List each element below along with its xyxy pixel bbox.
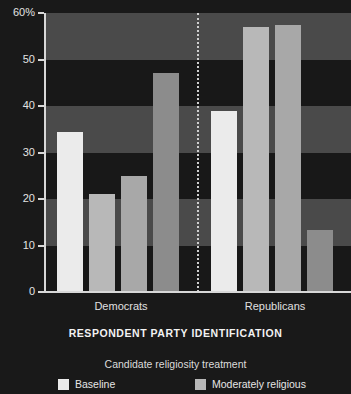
- legend-label-baseline: Baseline: [75, 378, 115, 390]
- y-tick-0: [38, 291, 44, 293]
- y-tick-10: [38, 245, 44, 247]
- legend-swatch-moderately-religious: [195, 379, 206, 390]
- legend-title: Candidate religiosity treatment: [0, 358, 351, 370]
- y-axis-line: [44, 13, 46, 293]
- bar-democrats-series-3: [121, 176, 147, 292]
- bar-democrats-series-4: [153, 73, 179, 292]
- y-tick-40: [38, 105, 44, 107]
- y-tick-60: [38, 12, 44, 14]
- bar-democrats-moderately-religious: [89, 194, 115, 292]
- y-tick-label-30: 30: [0, 146, 35, 158]
- plot-area: [45, 13, 351, 292]
- legend-item-baseline[interactable]: Baseline: [58, 378, 115, 390]
- y-tick-label-0: 0: [0, 285, 35, 297]
- y-tick-20: [38, 198, 44, 200]
- group-divider: [197, 13, 199, 292]
- bar-republicans-series-3: [275, 25, 301, 292]
- legend: Baseline Moderately religious: [0, 378, 351, 394]
- y-tick-label-50: 50: [0, 53, 35, 65]
- y-tick-label-10: 10: [0, 239, 35, 251]
- y-tick-30: [38, 152, 44, 154]
- legend-label-moderately-religious: Moderately religious: [212, 378, 306, 390]
- bar-democrats-baseline: [57, 132, 83, 292]
- x-group-label-republicans: Republicans: [199, 300, 351, 312]
- y-tick-label-60: 60%: [0, 6, 35, 18]
- bar-republicans-moderately-religious: [243, 27, 269, 292]
- x-group-label-democrats: Democrats: [45, 300, 197, 312]
- chart-container: 60% 50 40 30 20 10 0 Democrats Republica…: [0, 0, 351, 394]
- x-axis-title: RESPONDENT PARTY IDENTIFICATION: [0, 327, 351, 339]
- bar-republicans-baseline: [211, 111, 237, 292]
- legend-item-moderately-religious[interactable]: Moderately religious: [195, 378, 306, 390]
- legend-swatch-baseline: [58, 379, 69, 390]
- y-tick-label-40: 40: [0, 99, 35, 111]
- x-axis-line: [44, 291, 351, 293]
- bar-republicans-series-4: [307, 230, 333, 292]
- y-tick-label-20: 20: [0, 192, 35, 204]
- y-tick-50: [38, 59, 44, 61]
